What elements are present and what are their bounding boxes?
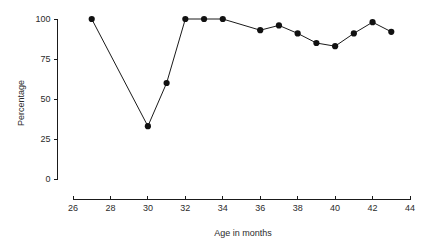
data-point-marker: [276, 22, 282, 28]
x-axis-tick-label: 26: [68, 203, 78, 213]
y-axis-tick-label: 0: [45, 174, 50, 184]
data-point-marker: [201, 16, 207, 22]
data-point-marker: [332, 43, 338, 49]
chart-figure: 0255075100 26283032343638404244 Percenta…: [0, 0, 431, 241]
x-axis-tick-label: 32: [180, 203, 190, 213]
data-point-marker: [145, 123, 151, 129]
x-axis-tick-label: 44: [405, 203, 415, 213]
y-axis-tick-label: 25: [40, 134, 50, 144]
x-axis-tick-label: 36: [255, 203, 265, 213]
x-axis-tick-label: 30: [143, 203, 153, 213]
y-axis-tick-label: 50: [40, 94, 50, 104]
data-point-marker: [369, 19, 375, 25]
x-axis-tick-label: 38: [293, 203, 303, 213]
data-point-marker: [257, 27, 263, 33]
x-axis-tick-label: 40: [330, 203, 340, 213]
data-point-marker: [313, 40, 319, 46]
data-point-marker: [89, 16, 95, 22]
x-axis-tick-label: 28: [105, 203, 115, 213]
data-point-marker: [388, 29, 394, 35]
data-point-marker: [182, 16, 188, 22]
data-point-marker: [351, 30, 357, 36]
y-axis-title: Percentage: [16, 80, 26, 126]
line-chart-canvas: 0255075100 26283032343638404244 Percenta…: [0, 0, 431, 241]
y-axis-tick-label: 100: [35, 14, 50, 24]
data-point-marker: [220, 16, 226, 22]
data-point-marker: [295, 30, 301, 36]
x-axis: 26283032343638404244: [68, 196, 415, 213]
x-axis-title: Age in months: [214, 228, 272, 238]
y-axis-tick-label: 75: [40, 54, 50, 64]
x-axis-tick-label: 34: [218, 203, 228, 213]
data-point-marker: [164, 80, 170, 86]
series-line: [92, 19, 392, 126]
y-axis: 0255075100: [35, 14, 57, 184]
x-axis-tick-label: 42: [368, 203, 378, 213]
data-series-percentage: [89, 16, 395, 129]
